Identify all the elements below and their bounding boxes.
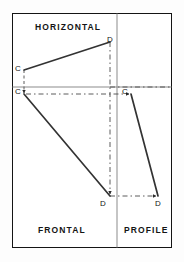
point-label-d-horizontal: D <box>107 35 113 44</box>
quadrant-label-profile: PROFILE <box>124 225 169 235</box>
object-line-cd-frontal <box>24 94 110 196</box>
point-label-d-profile: D <box>155 199 161 208</box>
point-label-c-horizontal: C <box>15 64 21 73</box>
quadrant-label-frontal: FRONTAL <box>38 225 86 235</box>
point-label-c-profile: C <box>122 87 128 96</box>
object-line-cd-profile <box>131 94 158 196</box>
quadrant-label-horizontal: HORIZONTAL <box>35 22 101 32</box>
object-line-cd-horizontal <box>24 42 110 70</box>
projection-diagram: HORIZONTAL FRONTAL PROFILE C D C D C D <box>0 0 184 262</box>
point-label-d-frontal: D <box>100 199 106 208</box>
point-label-c-frontal: C <box>15 87 21 96</box>
diagram-canvas <box>0 0 184 262</box>
